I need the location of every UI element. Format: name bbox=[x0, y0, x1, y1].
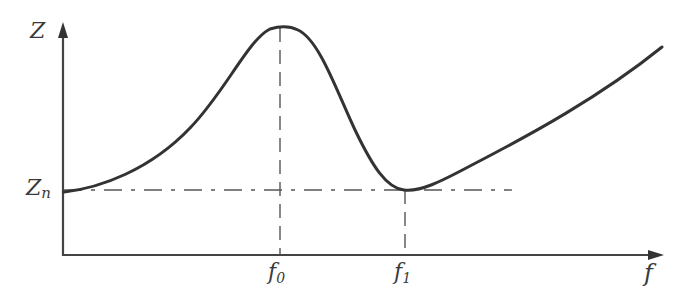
f0-label-main: f bbox=[268, 259, 276, 284]
f1-label: f1 bbox=[394, 259, 411, 286]
f1-label-sub: 1 bbox=[402, 270, 411, 286]
y-axis-label: Z bbox=[30, 18, 45, 43]
impedance-curve bbox=[64, 27, 662, 192]
zn-label: Zn bbox=[26, 175, 51, 202]
zn-label-sub: n bbox=[41, 184, 51, 202]
f1-label-main: f bbox=[394, 259, 402, 284]
impedance-chart bbox=[0, 0, 692, 301]
y-axis-arrow-icon bbox=[58, 22, 68, 38]
zn-label-main: Z bbox=[26, 175, 41, 200]
x-axis-label: f bbox=[644, 259, 653, 287]
f0-label-sub: 0 bbox=[276, 270, 285, 286]
f0-label: f0 bbox=[268, 259, 285, 286]
